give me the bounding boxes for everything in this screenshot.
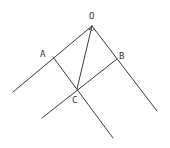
- ray-OA: [13, 26, 92, 92]
- point-label-B: B: [119, 51, 124, 61]
- labels-group: O A B C: [40, 11, 124, 105]
- point-label-C: C: [72, 95, 77, 105]
- segments-group: [13, 26, 157, 138]
- point-label-A: A: [40, 49, 46, 59]
- segment-OC: [77, 26, 92, 89]
- line-BC: [42, 59, 117, 118]
- geometry-diagram: O A B C: [0, 0, 170, 148]
- point-label-O: O: [89, 11, 94, 21]
- ray-OB: [92, 26, 157, 111]
